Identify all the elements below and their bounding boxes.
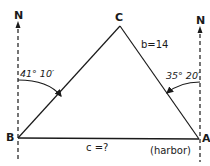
north-arrow-right-icon <box>198 26 203 33</box>
angle-label-b: 41° 10′ <box>20 68 55 79</box>
north-label-left: N <box>14 9 23 22</box>
vertex-label-b: B <box>6 131 14 144</box>
north-line-left: N <box>14 9 23 162</box>
north-label-right: N <box>196 14 205 27</box>
side-ba <box>18 138 199 139</box>
side-label-c: c =? <box>86 142 108 153</box>
vertex-label-c: C <box>115 11 123 24</box>
triangle-diagram: N N 41° 10′ 35° 20′ C B A b=14 c =? (har… <box>0 0 210 166</box>
angle-arc-b <box>18 80 61 96</box>
side-bc <box>18 26 120 138</box>
side-label-b: b=14 <box>141 39 168 50</box>
harbor-label: (harbor) <box>150 145 191 156</box>
north-arrow-left-icon <box>16 21 21 28</box>
angle-arc-a <box>167 82 200 93</box>
vertex-label-a: A <box>202 132 210 145</box>
angle-label-a: 35° 20′ <box>166 70 201 81</box>
